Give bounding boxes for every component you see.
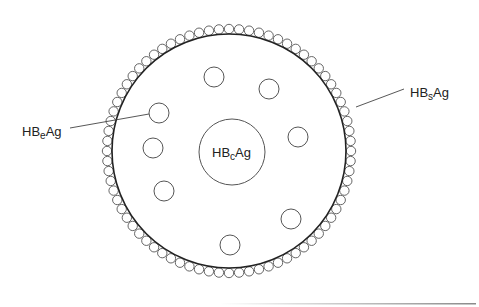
surface-antigen-bead [194, 28, 203, 37]
surface-antigen-bead [224, 268, 233, 277]
surface-antigen-bead [104, 126, 113, 135]
surface-antigen-bead [346, 136, 355, 145]
e-antigen-particle [204, 67, 224, 87]
surface-antigen-bead [345, 166, 354, 175]
e-antigen-particle [149, 103, 169, 123]
e-antigen-particle [288, 127, 308, 147]
surface-antigen-bead [254, 265, 263, 274]
surface-antigen-bead [346, 156, 355, 165]
surface-antigen-bead [224, 24, 233, 33]
e-antigen-particle [220, 235, 240, 255]
surface-antigen-bead [340, 186, 349, 195]
surface-antigen-bead [185, 31, 194, 40]
hbv-diagram: HBcAg HBeAg HBsAg [0, 0, 479, 307]
surface-antigen-bead [244, 26, 253, 35]
e-antigen-particle [143, 138, 163, 158]
e-antigen-particles [143, 67, 308, 255]
surface-antigen-bead [343, 176, 352, 185]
surface-antigen-bead [214, 268, 223, 277]
scan-edge-line [220, 303, 476, 305]
hbsag-label: HBsAg [410, 85, 449, 102]
surface-antigen-bead [264, 262, 273, 271]
surface-antigen-bead [204, 267, 213, 276]
surface-antigen-bead [106, 176, 115, 185]
e-antigen-particle [154, 181, 174, 201]
surface-antigen-bead [346, 146, 355, 155]
surface-antigen-bead [214, 25, 223, 34]
surface-antigen-bead [103, 136, 112, 145]
surface-antigen-bead [104, 166, 113, 175]
surface-antigen-bead [109, 186, 118, 195]
surface-antigen-bead [185, 262, 194, 271]
hbcag-label: HBcAg [212, 145, 251, 162]
e-antigen-particle [259, 79, 279, 99]
surface-antigen-bead [234, 25, 243, 34]
e-antigen-particle [281, 209, 301, 229]
hbeag-label: HBeAg [22, 124, 62, 141]
surface-antigen-bead [109, 107, 118, 116]
surface-antigen-bead [244, 267, 253, 276]
surface-antigen-bead [194, 265, 203, 274]
surface-antigen-bead [345, 126, 354, 135]
surface-antigen-bead [103, 156, 112, 165]
surface-antigen-bead [204, 26, 213, 35]
hbsag-leader-line [356, 89, 404, 107]
surface-antigen-bead [254, 28, 263, 37]
surface-antigen-bead [264, 31, 273, 40]
surface-antigen-bead [340, 107, 349, 116]
surface-antigen-bead [343, 116, 352, 125]
surface-antigen-bead [102, 146, 111, 155]
surface-antigen-bead [234, 268, 243, 277]
